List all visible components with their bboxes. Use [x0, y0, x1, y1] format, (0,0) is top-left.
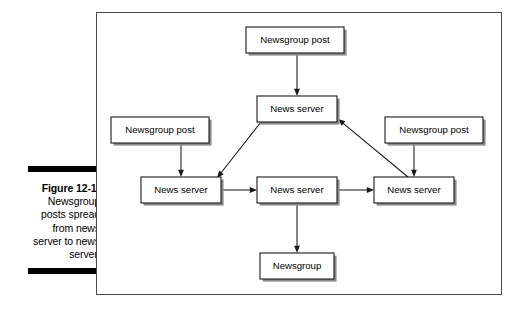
arrow-icon-post-top-to-server-top [294, 89, 300, 96]
node-label-post-right: Newsgroup post [399, 124, 469, 135]
figure-number-label: Figure 12-1: [28, 182, 100, 195]
figure-frame: Newsgroup postNews serverNewsgroup postN… [96, 12, 502, 295]
arrow-icon-server-left-to-server-middle [250, 187, 257, 193]
edge-post-left-to-server-left [178, 143, 184, 177]
node-server-top: News server [257, 96, 340, 125]
caption-rule-bottom [28, 268, 100, 274]
node-server-left: News server [141, 177, 224, 206]
caption-rule-top [28, 166, 100, 172]
edge-server-left-to-server-middle [221, 187, 257, 193]
diagram-edges-layer [178, 53, 417, 253]
node-server-middle: News server [257, 177, 340, 206]
edge-server-top-to-server-left [217, 122, 261, 178]
newsgroup-propagation-diagram: Newsgroup postNews serverNewsgroup postN… [97, 13, 503, 296]
edge-line-server-top-to-server-left [221, 122, 261, 173]
node-label-server-right: News server [387, 184, 441, 195]
node-label-post-left: Newsgroup post [125, 124, 195, 135]
diagram-nodes-layer: Newsgroup postNews serverNewsgroup postN… [111, 27, 486, 282]
figure-caption-body: Newsgroup posts spread from news server … [28, 195, 100, 261]
arrow-icon-post-left-to-server-left [178, 170, 184, 177]
edge-post-top-to-server-top [294, 53, 300, 96]
node-label-newsgroup: Newsgroup [273, 260, 322, 271]
node-label-post-top: Newsgroup post [260, 34, 330, 45]
node-newsgroup: Newsgroup [260, 253, 337, 282]
arrow-icon-server-middle-to-newsgroup [294, 246, 300, 253]
node-post-top: Newsgroup post [246, 27, 347, 56]
node-post-right: Newsgroup post [385, 117, 486, 146]
node-label-server-middle: News server [270, 184, 324, 195]
edge-server-middle-to-newsgroup [294, 203, 300, 253]
arrow-icon-post-right-to-server-right [411, 170, 417, 177]
node-server-right: News server [374, 177, 457, 206]
node-label-server-top: News server [270, 103, 324, 114]
figure-caption-block: Figure 12-1: Newsgroup posts spread from… [28, 166, 100, 274]
figure-caption-text: Figure 12-1: Newsgroup posts spread from… [28, 182, 100, 261]
node-label-server-left: News server [154, 184, 208, 195]
edge-post-right-to-server-right [411, 143, 417, 177]
arrow-icon-server-middle-to-server-right [367, 187, 374, 193]
edge-server-middle-to-server-right [337, 187, 374, 193]
node-post-left: Newsgroup post [111, 117, 212, 146]
